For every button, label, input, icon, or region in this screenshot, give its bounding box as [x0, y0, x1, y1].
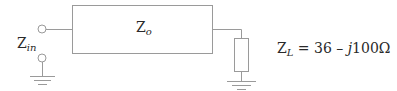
zo-sub: o — [146, 26, 152, 37]
zl-value: 100Ω — [352, 40, 390, 56]
input-terminal-bottom — [38, 54, 46, 62]
zl-sub: L — [287, 47, 294, 58]
characteristic-impedance-label: Zo — [136, 20, 152, 34]
zo-main: Z — [136, 19, 146, 35]
input-ground-icon — [30, 77, 55, 85]
zin-main: Z — [17, 35, 27, 51]
zin-sub: in — [27, 42, 37, 53]
input-terminal-top — [38, 25, 46, 33]
load-resistor — [235, 39, 249, 72]
zl-equals: = 36 – — [293, 40, 347, 56]
load-impedance-label: ZL = 36 – j100Ω — [277, 41, 390, 55]
input-impedance-label: Zin — [17, 36, 36, 50]
zl-main: Z — [277, 40, 287, 56]
load-ground-icon — [227, 82, 256, 90]
